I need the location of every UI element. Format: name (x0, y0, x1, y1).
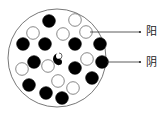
yang-particle (69, 14, 82, 27)
particles-group (16, 14, 109, 105)
leader-dot-icon (139, 31, 141, 33)
yang-particle (16, 63, 29, 76)
yin-particle (43, 15, 56, 28)
yang-particle (57, 28, 70, 41)
leader-dot-icon (139, 61, 141, 63)
yin-particle (96, 56, 109, 69)
yang-particle (52, 75, 65, 88)
label-yang: 阳 (146, 26, 157, 38)
yin-particle (69, 62, 82, 75)
yin-particle (17, 38, 30, 51)
yang-particle (42, 60, 55, 73)
yang-particle (27, 27, 40, 40)
yin-particle (86, 72, 99, 85)
yin-particle (28, 56, 41, 69)
yin-particle (69, 38, 82, 51)
yin-particle (56, 92, 69, 105)
yin-yang-diagram (0, 0, 165, 117)
yang-particle (67, 82, 80, 95)
label-yin: 阴 (146, 57, 157, 69)
yang-particle (81, 53, 94, 66)
yin-particle (23, 79, 36, 92)
yin-particle (94, 38, 107, 51)
yin-particle (39, 38, 52, 51)
yin-particle (40, 87, 53, 100)
taiji-icon (53, 53, 62, 65)
